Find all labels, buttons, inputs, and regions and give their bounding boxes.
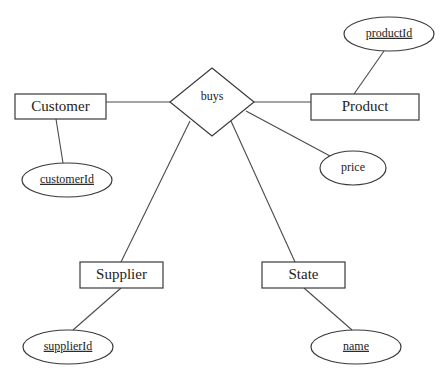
entity-label: Product	[342, 98, 389, 114]
attribute-label: name	[343, 339, 369, 353]
connector-state-name	[304, 288, 352, 330]
attribute-label: price	[341, 160, 365, 174]
connector-buys-state	[231, 121, 295, 262]
attribute-productId[interactable]: productId	[344, 17, 434, 51]
entity-customer[interactable]: Customer	[15, 94, 106, 119]
attribute-label: supplierId	[44, 339, 93, 353]
entity-label: State	[289, 266, 319, 282]
entity-product[interactable]: Product	[311, 94, 419, 120]
connector-supplier-supplierId	[73, 288, 121, 330]
attribute-label: customerId	[40, 172, 94, 186]
er-diagram: buys Customer Product Supplier State pro…	[0, 0, 443, 380]
relationship-buys[interactable]: buys	[170, 68, 254, 136]
entity-label: Customer	[31, 98, 89, 114]
attribute-label: productId	[366, 26, 413, 40]
entity-label: Supplier	[96, 266, 147, 282]
relationship-label: buys	[201, 89, 224, 103]
entity-state[interactable]: State	[262, 262, 345, 288]
attribute-customerId[interactable]: customerId	[22, 163, 112, 197]
connector-customer-customerId	[56, 119, 63, 163]
entity-supplier[interactable]: Supplier	[80, 262, 163, 288]
attribute-name[interactable]: name	[311, 330, 401, 364]
connector-product-productId	[354, 51, 384, 94]
connector-buys-supplier	[121, 121, 190, 262]
attribute-supplierId[interactable]: supplierId	[23, 330, 113, 364]
attribute-price[interactable]: price	[320, 151, 386, 185]
